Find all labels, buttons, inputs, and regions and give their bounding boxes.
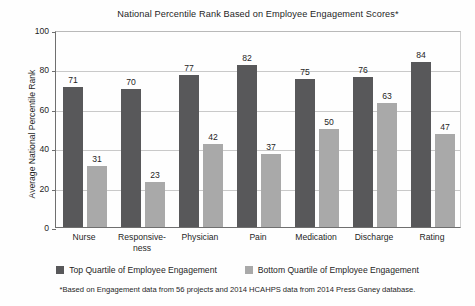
y-tick-mark: [52, 229, 56, 230]
plot-area: 7131702377428237755076638447: [55, 31, 461, 228]
bar-value-label: 63: [371, 91, 403, 101]
legend-label: Bottom Quartile of Employee Engagement: [258, 265, 419, 275]
y-tick-label: 80: [9, 65, 49, 75]
bar-value-label: 71: [57, 75, 89, 85]
y-tick-mark: [52, 111, 56, 112]
y-tick-label: 40: [9, 144, 49, 154]
y-axis-title: Average National Percentile Rank: [27, 34, 37, 234]
y-tick-mark: [52, 71, 56, 72]
bar-value-label: 47: [429, 122, 461, 132]
y-tick-mark: [52, 190, 56, 191]
x-tick-label: Rating: [397, 232, 467, 243]
bar-value-label: 84: [405, 50, 437, 60]
bar[interactable]: [295, 79, 315, 227]
bar-value-label: 75: [289, 67, 321, 77]
y-tick-label: 0: [9, 223, 49, 233]
bar-value-label: 31: [81, 154, 113, 164]
chart-title: National Percentile Rank Based on Employ…: [55, 9, 461, 19]
bar-value-label: 50: [313, 117, 345, 127]
y-tick-label: 60: [9, 105, 49, 115]
bar-value-label: 77: [173, 63, 205, 73]
gridline: [56, 71, 460, 72]
y-tick-label: 20: [9, 184, 49, 194]
bar[interactable]: [145, 182, 165, 227]
bar-value-label: 37: [255, 142, 287, 152]
bar[interactable]: [411, 62, 431, 227]
bar-value-label: 23: [139, 170, 171, 180]
bar[interactable]: [353, 77, 373, 227]
bar-value-label: 42: [197, 132, 229, 142]
y-tick-mark: [52, 32, 56, 33]
bar[interactable]: [319, 129, 339, 228]
bar-value-label: 76: [347, 65, 379, 75]
bar-value-label: 70: [115, 77, 147, 87]
bar-chart: National Percentile Rank Based on Employ…: [0, 0, 475, 306]
legend-swatch-icon: [56, 266, 64, 274]
legend-entry[interactable]: Bottom Quartile of Employee Engagement: [245, 265, 419, 275]
chart-footnote: *Based on Engagement data from 56 projec…: [0, 285, 475, 294]
bar[interactable]: [435, 134, 455, 227]
y-tick-mark: [52, 150, 56, 151]
gridline: [56, 111, 460, 112]
chart-legend: Top Quartile of Employee EngagementBotto…: [0, 265, 475, 275]
legend-swatch-icon: [245, 266, 253, 274]
bar[interactable]: [63, 87, 83, 227]
bar[interactable]: [121, 89, 141, 227]
bar[interactable]: [87, 166, 107, 227]
bar[interactable]: [203, 144, 223, 227]
bar[interactable]: [179, 75, 199, 227]
bar[interactable]: [377, 103, 397, 227]
gridline: [56, 190, 460, 191]
legend-label: Top Quartile of Employee Engagement: [69, 265, 217, 275]
bar[interactable]: [261, 154, 281, 227]
bar[interactable]: [237, 65, 257, 227]
y-tick-label: 100: [9, 26, 49, 36]
bar-value-label: 82: [231, 53, 263, 63]
legend-entry[interactable]: Top Quartile of Employee Engagement: [56, 265, 217, 275]
